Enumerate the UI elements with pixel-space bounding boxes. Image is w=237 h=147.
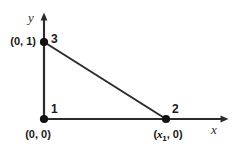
x-axis-label: x [210, 122, 217, 137]
node-2-number: 2 [172, 102, 179, 116]
figure-background [0, 0, 237, 147]
triangle-element-figure: y x 1 2 3 (0, 0) [0, 0, 237, 147]
node-1-coordinate-label: (0, 0) [25, 128, 51, 140]
node-3-number: 3 [51, 32, 58, 46]
node-3-coordinate-label: (0, 1) [10, 35, 36, 47]
figure-canvas: y x 1 2 3 (0, 0) [0, 0, 237, 147]
node-3-marker [40, 38, 48, 46]
node-1-number: 1 [51, 102, 58, 116]
y-axis-label: y [26, 10, 34, 25]
node-1-marker [40, 115, 48, 123]
node-2-marker [162, 115, 170, 123]
node-2-coord-rest: , 0) [167, 128, 183, 140]
